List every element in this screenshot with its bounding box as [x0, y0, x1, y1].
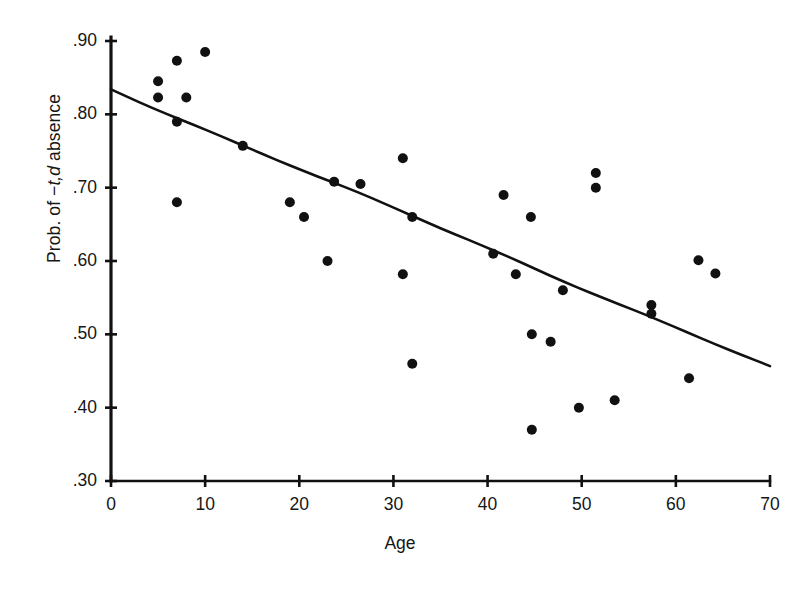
figure-canvas: .30.40.50.60.70.80.90 010203040506070 Pr… [0, 0, 808, 590]
x-tick-label: 20 [279, 494, 319, 515]
data-point [238, 141, 248, 151]
data-point [488, 249, 498, 259]
data-point [172, 197, 182, 207]
data-point [355, 179, 365, 189]
data-point [407, 359, 417, 369]
x-tick-label: 70 [750, 494, 790, 515]
x-tick-label: 60 [656, 494, 696, 515]
data-point [511, 269, 521, 279]
data-point [710, 268, 720, 278]
data-point [527, 329, 537, 339]
regression-line [111, 89, 770, 366]
y-axis-label-suffix: absence [44, 94, 64, 166]
x-tick-label: 40 [468, 494, 508, 515]
data-point [499, 190, 509, 200]
data-point [591, 183, 601, 193]
data-point [398, 153, 408, 163]
y-tick-label: .30 [39, 470, 97, 491]
data-point [200, 47, 210, 57]
data-point [527, 425, 537, 435]
data-point [153, 76, 163, 86]
data-point [574, 403, 584, 413]
x-axis-label: Age [384, 533, 415, 553]
data-point [546, 337, 556, 347]
y-axis-label-italic: t,d [44, 166, 64, 186]
data-point [153, 92, 163, 102]
data-point [684, 373, 694, 383]
data-point [693, 255, 703, 265]
x-tick-label: 50 [562, 494, 602, 515]
y-axis-label: Prob. of −t,d absence [44, 29, 65, 329]
data-point [398, 269, 408, 279]
data-point [646, 309, 656, 319]
trend-line [111, 89, 770, 366]
y-tick-label: .40 [39, 397, 97, 418]
data-point [526, 212, 536, 222]
data-point [407, 212, 417, 222]
data-point [299, 212, 309, 222]
data-point [172, 117, 182, 127]
y-axis-label-prefix: Prob. of − [44, 186, 64, 263]
x-tick-label: 0 [91, 494, 131, 515]
x-tick-label: 10 [185, 494, 225, 515]
data-point [329, 177, 339, 187]
x-axis-label-wrap: Age [0, 533, 808, 554]
data-point [610, 395, 620, 405]
data-point [323, 256, 333, 266]
data-point [591, 168, 601, 178]
data-point [646, 300, 656, 310]
x-tick-label: 30 [373, 494, 413, 515]
data-point [181, 92, 191, 102]
axes [105, 37, 770, 487]
data-point [285, 197, 295, 207]
data-points [153, 47, 720, 435]
data-point [558, 285, 568, 295]
data-point [172, 56, 182, 66]
